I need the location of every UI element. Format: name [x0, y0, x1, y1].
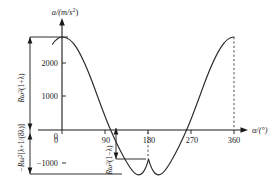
- chart-figure: 0 90 180 270 360 2000 1000 0 −1000 a/(m/…: [0, 0, 278, 196]
- x-tick-label-360: 360: [228, 136, 240, 145]
- upper-dim-arrow-bottom: [28, 124, 33, 131]
- mid-bracket-label-tail: (1−λ): [105, 145, 114, 162]
- y-tick-label-1000: 1000: [41, 92, 58, 101]
- svg-text:Rω2(1−λ): Rω2(1−λ): [105, 145, 115, 175]
- x-tick-label-180: 180: [143, 136, 155, 145]
- y-tick-label-2000: 2000: [41, 59, 58, 68]
- y-axis-title-close: ): [75, 8, 78, 17]
- x-axis-title: α/(°): [252, 126, 268, 135]
- x-tick-labels: 0 90 180 270 360: [54, 136, 240, 145]
- mid-bracket-label-group: Rω2(1−λ): [105, 145, 115, 175]
- x-axis-arrowhead: [241, 127, 249, 133]
- y-axis-arrowhead: [59, 18, 65, 26]
- x-axis-title-text: α/(°): [252, 126, 268, 135]
- acceleration-curve: [53, 37, 235, 175]
- upper-bracket-label-tail: (1+λ): [17, 73, 26, 90]
- svg-text:a/(m/s2): a/(m/s2): [52, 7, 79, 17]
- x-axis: [38, 127, 248, 133]
- y-axis-title-text: a/(m/s: [52, 8, 73, 17]
- lower-dim-arrow-bottom: [28, 168, 33, 175]
- mid-dimension-group: [114, 128, 119, 159]
- lower-bracket-label-tail: [λ+1/(8λ)]: [17, 124, 26, 155]
- y-tickmarks: [62, 63, 66, 163]
- lower-bracket-label-text: −Rω: [17, 157, 26, 172]
- mid-dim-arrow-bottom: [114, 153, 119, 160]
- left-dimension-group: [28, 37, 33, 174]
- plot-svg: 0 90 180 270 360 2000 1000 0 −1000 a/(m/…: [0, 0, 278, 196]
- x-tick-label-270: 270: [186, 136, 198, 145]
- mid-dim-arrow-top: [114, 128, 119, 135]
- svg-text:Rω2(1+λ): Rω2(1+λ): [17, 73, 27, 103]
- y-tick-label-m1000: −1000: [37, 159, 58, 168]
- y-tick-labels: 2000 1000 0 −1000: [37, 59, 58, 168]
- upper-dim-arrow-top: [28, 37, 33, 44]
- y-axis: [59, 18, 65, 130]
- mid-bracket-label-text: Rω: [105, 165, 114, 176]
- upper-bracket-label-group: Rω2(1+λ): [17, 73, 27, 103]
- upper-bracket-label-text: Rω: [17, 93, 26, 104]
- x-tick-label-90: 90: [102, 136, 110, 145]
- svg-text:−Rω2[λ+1/(8λ)]: −Rω2[λ+1/(8λ)]: [17, 124, 27, 172]
- lower-bracket-label-group: −Rω2[λ+1/(8λ)]: [17, 124, 27, 172]
- lower-dim-arrow-top: [28, 133, 33, 140]
- y-tick-label-0: 0: [54, 132, 58, 141]
- y-axis-title: a/(m/s2): [52, 7, 79, 17]
